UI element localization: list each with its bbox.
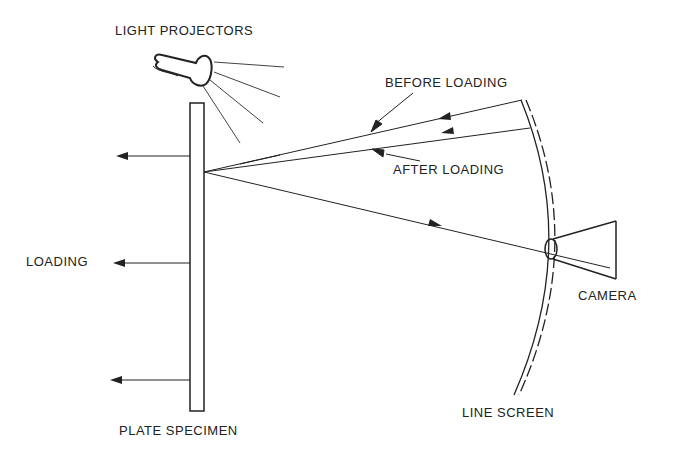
diagram-canvas <box>0 0 674 458</box>
plate-specimen <box>190 103 204 411</box>
label-loading: LOADING <box>26 254 88 269</box>
light-projector-icon <box>153 55 212 86</box>
light-rays <box>203 62 284 143</box>
leader-lines <box>371 93 420 161</box>
line-screen <box>514 100 555 395</box>
label-line-screen: LINE SCREEN <box>462 405 554 420</box>
loading-arrows <box>116 156 190 380</box>
camera-icon <box>545 221 616 279</box>
label-after-loading: AFTER LOADING <box>393 162 504 177</box>
label-camera: CAMERA <box>578 288 637 303</box>
label-before-loading: BEFORE LOADING <box>385 75 508 90</box>
label-light-projectors: LIGHT PROJECTORS <box>115 23 253 38</box>
label-plate-specimen: PLATE SPECIMEN <box>119 423 238 438</box>
